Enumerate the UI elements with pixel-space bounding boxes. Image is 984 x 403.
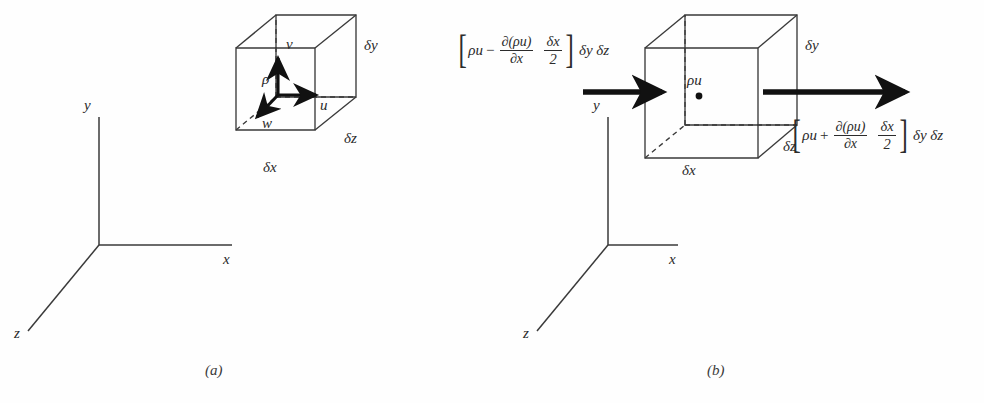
panel-b-cube-back-face	[685, 15, 797, 125]
inflow-bracket-left: [	[459, 34, 467, 67]
outflow-half-fraction: δx 2	[878, 119, 895, 151]
panel-b-cube-edge-tr	[758, 15, 797, 48]
panel-a-velocity-vectors	[257, 58, 316, 117]
velocity-w-label: w	[262, 116, 272, 131]
inflow-half-denominator: 2	[547, 52, 558, 67]
outflow-half-denominator: 2	[881, 137, 892, 152]
outflow-half-numerator: δx	[878, 119, 895, 134]
panel-b-caption: (b)	[707, 363, 725, 378]
panel-a-cube-hidden-edges	[236, 15, 356, 130]
outflow-derivative-numerator: ∂(ρu)	[834, 120, 868, 134]
outflow-operator: +	[820, 128, 828, 143]
inflow-derivative-numerator: ∂(ρu)	[500, 35, 534, 49]
panel-a-axes	[28, 117, 232, 331]
outflow-derivative-fraction: ∂(ρu) ∂x	[834, 120, 868, 151]
velocity-vector-w	[257, 95, 278, 117]
panel-b-z-axis-label: z	[523, 326, 529, 341]
inflow-base-term: ρu	[468, 43, 483, 58]
panel-b-cube-edge-tl	[645, 15, 685, 48]
panel-b-cube-front-face	[645, 48, 758, 158]
panel-b-cube-hidden-edges	[645, 15, 797, 158]
panel-a-caption: (a)	[205, 363, 223, 378]
velocity-u-label: u	[320, 98, 328, 113]
panel-b-y-axis-label: y	[593, 98, 600, 113]
panel-b-axes	[537, 117, 678, 331]
panel-a-dim-x-label: δx	[263, 160, 277, 175]
panel-b-dim-x-label: δx	[682, 163, 696, 178]
outflow-area-term: δy δz	[913, 128, 943, 143]
outflow-base-term: ρu	[802, 128, 817, 143]
inflow-operator: −	[486, 43, 494, 58]
inflow-half-numerator: δx	[544, 34, 561, 49]
panel-b-cube	[645, 15, 797, 158]
panel-a-y-axis-label: y	[84, 98, 91, 113]
panel-b-dim-y-label: δy	[805, 38, 819, 53]
panel-a-z-axis	[28, 245, 99, 331]
inflow-half-fraction: δx 2	[544, 34, 561, 66]
panel-b-center-rho-u-label: ρu	[687, 73, 702, 88]
inflow-derivative-denominator: ∂x	[508, 52, 525, 66]
velocity-v-label: v	[286, 37, 293, 52]
panel-b-z-axis	[537, 245, 608, 331]
panel-a-cube-edge-tr	[315, 15, 356, 48]
outflow-bracket-left: [	[793, 119, 801, 152]
inflow-derivative-fraction: ∂(ρu) ∂x	[500, 35, 534, 66]
outflow-derivative-denominator: ∂x	[842, 137, 859, 151]
panel-a-cube	[236, 15, 356, 130]
outflow-flux-expression: [ ρu + ∂(ρu) ∂x δx 2 ] δy δz	[790, 119, 943, 152]
panel-a-dim-z-label: δz	[344, 131, 357, 146]
inflow-flux-expression: [ ρu − ∂(ρu) ∂x δx 2 ] δy δz	[456, 34, 609, 67]
inflow-bracket-right: ]	[565, 34, 573, 67]
panel-a-dim-y-label: δy	[364, 38, 378, 53]
panel-a-cube-back-face	[276, 15, 356, 97]
inflow-area-term: δy δz	[579, 43, 609, 58]
outflow-bracket-right: ]	[899, 119, 907, 152]
density-rho-label: ρ	[262, 72, 269, 87]
panel-a-z-axis-label: z	[14, 326, 20, 341]
panel-b-x-axis-label: x	[669, 252, 676, 267]
panel-a-cube-edge-tl	[236, 15, 276, 48]
panel-a-x-axis-label: x	[223, 252, 230, 267]
panel-b-cube-center-point	[696, 93, 703, 100]
fluid-element-figure: y x z v u w ρ δy δz δx (a) y x z ρu δy δ…	[0, 0, 984, 403]
